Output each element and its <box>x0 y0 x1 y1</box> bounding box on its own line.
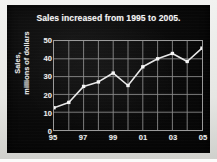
data-point-marker <box>97 80 100 83</box>
y-tick-label: 40 <box>33 54 52 63</box>
y-axis-title-line-2: millions of dollars <box>22 20 31 106</box>
data-point-marker <box>141 65 144 68</box>
chart-screenshot: Sales increased from 1995 to 2005. Sales… <box>0 0 217 162</box>
data-point-marker <box>67 101 70 104</box>
data-point-marker <box>156 57 159 60</box>
x-tick-label: 95 <box>49 133 57 142</box>
data-point-marker <box>200 46 202 49</box>
data-point-marker <box>126 84 129 87</box>
y-axis-title-line-1: Sales, <box>13 20 22 106</box>
y-axis-title: Sales, millions of dollars <box>13 20 33 106</box>
x-tick-label: 97 <box>79 133 87 142</box>
x-tick-label: 03 <box>169 133 177 142</box>
x-tick-label: 05 <box>199 133 207 142</box>
y-tick-label: 20 <box>33 90 52 99</box>
y-tick-label: 10 <box>33 108 52 117</box>
x-tick-label: 01 <box>139 133 147 142</box>
data-point-marker <box>112 71 115 74</box>
bottom-rule <box>0 159 217 162</box>
y-tick-label: 30 <box>33 72 52 81</box>
x-axis-tick-labels: 959799010305 <box>53 133 203 147</box>
plot-area <box>53 40 203 131</box>
y-tick-label: 50 <box>33 36 52 45</box>
data-point-marker <box>186 60 189 63</box>
chart-panel: Sales increased from 1995 to 2005. Sales… <box>7 5 210 153</box>
data-point-marker <box>54 106 56 109</box>
chart-title: Sales increased from 1995 to 2005. <box>7 13 210 23</box>
data-point-marker <box>171 52 174 55</box>
data-point-marker <box>82 85 85 88</box>
x-tick-label: 99 <box>109 133 117 142</box>
y-axis-tick-labels: 01020304050 <box>33 35 52 136</box>
plot-svg <box>54 41 202 130</box>
